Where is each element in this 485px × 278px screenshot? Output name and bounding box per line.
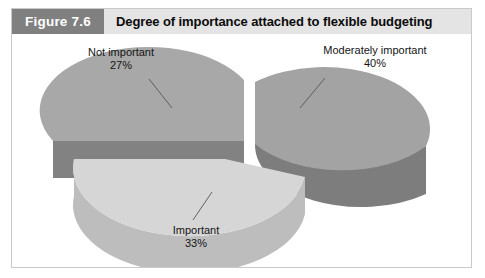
figure-header: Figure 7.6 Degree of importance attached… [12, 9, 471, 34]
pie-chart-plot-area: Not important 27% Moderately important 4… [12, 34, 471, 267]
figure-title: Degree of importance attached to flexibl… [116, 9, 467, 34]
pie-label-moderately-important: Moderately important 40% [322, 44, 428, 70]
pie-label-moderately-important-line1: Moderately [323, 44, 377, 56]
pie-slice-important[interactable] [73, 159, 305, 267]
pie-label-not-important-line2: important [108, 46, 154, 58]
pie-slice-moderately-important-top [255, 67, 430, 170]
pie-label-not-important-line1: Not [88, 46, 105, 58]
pie-label-moderately-important-line2: important [381, 44, 427, 56]
figure-number-badge: Figure 7.6 [12, 9, 104, 34]
pie-label-not-important-value: 27% [76, 59, 166, 72]
figure-frame: Figure 7.6 Degree of importance attached… [11, 8, 472, 268]
pie-label-important: Important 33% [148, 224, 244, 250]
pie-label-moderately-important-value: 40% [322, 57, 428, 70]
pie-label-important-line1: Important [173, 224, 219, 236]
pie-label-important-value: 33% [148, 237, 244, 250]
pie-label-not-important: Not important 27% [76, 46, 166, 72]
